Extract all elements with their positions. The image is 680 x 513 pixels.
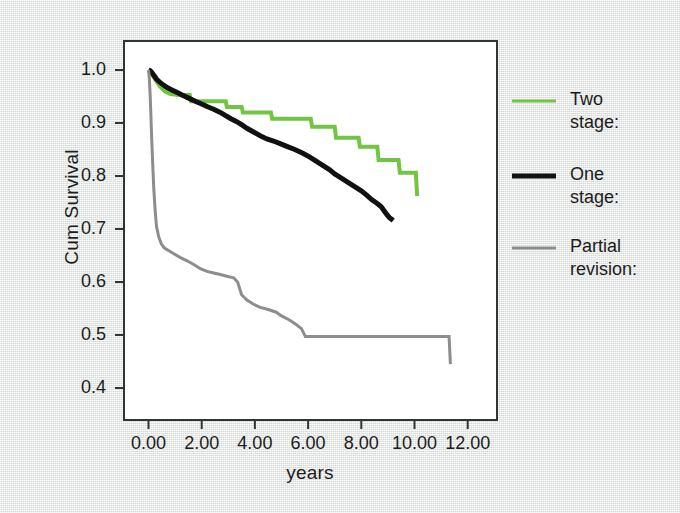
survival-chart-figure: Cum Survival years 1.00.90.80.70.60.50.4…: [0, 0, 680, 513]
y-tick-label: 0.4: [60, 377, 106, 398]
x-tick-label: 4.00: [225, 433, 285, 454]
x-axis-ticks: [149, 420, 468, 429]
x-tick-label: 0.00: [119, 433, 179, 454]
y-tick-label: 0.8: [60, 165, 106, 186]
legend-item-label: Partial revision:: [570, 235, 637, 281]
y-axis-label: Cum Survival: [61, 127, 83, 287]
y-tick-label: 0.7: [60, 218, 106, 239]
x-tick-label: 2.00: [172, 433, 232, 454]
y-tick-label: 0.9: [60, 112, 106, 133]
plot-area-background: [124, 41, 497, 420]
legend-item-label: Two stage:: [570, 88, 619, 134]
x-tick-label: 12.00: [438, 433, 498, 454]
y-tick-label: 0.6: [60, 271, 106, 292]
legend-swatches: [512, 101, 556, 248]
legend-item-label: One stage:: [570, 163, 619, 209]
x-axis-label: years: [250, 462, 370, 484]
y-tick-label: 0.5: [60, 324, 106, 345]
x-tick-label: 10.00: [385, 433, 445, 454]
y-tick-label: 1.0: [60, 59, 106, 80]
y-axis-ticks: [115, 70, 124, 388]
x-tick-label: 8.00: [331, 433, 391, 454]
x-tick-label: 6.00: [278, 433, 338, 454]
